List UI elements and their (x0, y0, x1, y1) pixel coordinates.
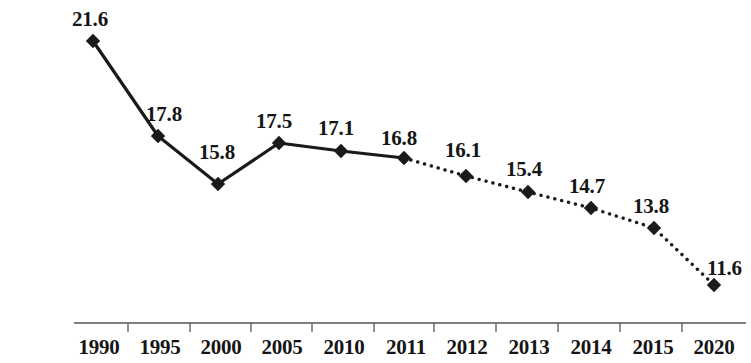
line-chart: 21.617.815.817.517.116.816.115.414.713.8… (0, 0, 751, 363)
data-point-marker (459, 169, 473, 183)
data-value-label: 21.6 (72, 9, 108, 30)
data-point-marker (647, 221, 661, 235)
data-value-label: 14.7 (569, 176, 605, 197)
x-axis (74, 323, 746, 332)
data-value-label: 11.6 (707, 258, 742, 279)
data-value-label: 17.5 (256, 111, 292, 132)
data-point-marker (397, 151, 411, 165)
data-value-label: 16.8 (381, 128, 417, 149)
data-point-markers (86, 34, 721, 292)
data-value-label: 17.1 (318, 118, 354, 139)
series-dotted-projected (404, 158, 714, 285)
observed-line (93, 41, 404, 184)
projected-line (404, 158, 714, 285)
data-value-label: 15.8 (199, 142, 235, 163)
data-value-label: 17.8 (146, 104, 182, 125)
data-value-label: 15.4 (506, 159, 542, 180)
data-point-marker (584, 201, 598, 215)
x-axis-tick-label-2020: 2020 (674, 337, 751, 358)
series-solid-observed (93, 41, 404, 184)
chart-plot-area (0, 0, 751, 363)
data-value-label: 16.1 (445, 140, 481, 161)
data-point-marker (521, 185, 535, 199)
data-value-label: 13.8 (633, 196, 669, 217)
data-point-marker (334, 144, 348, 158)
